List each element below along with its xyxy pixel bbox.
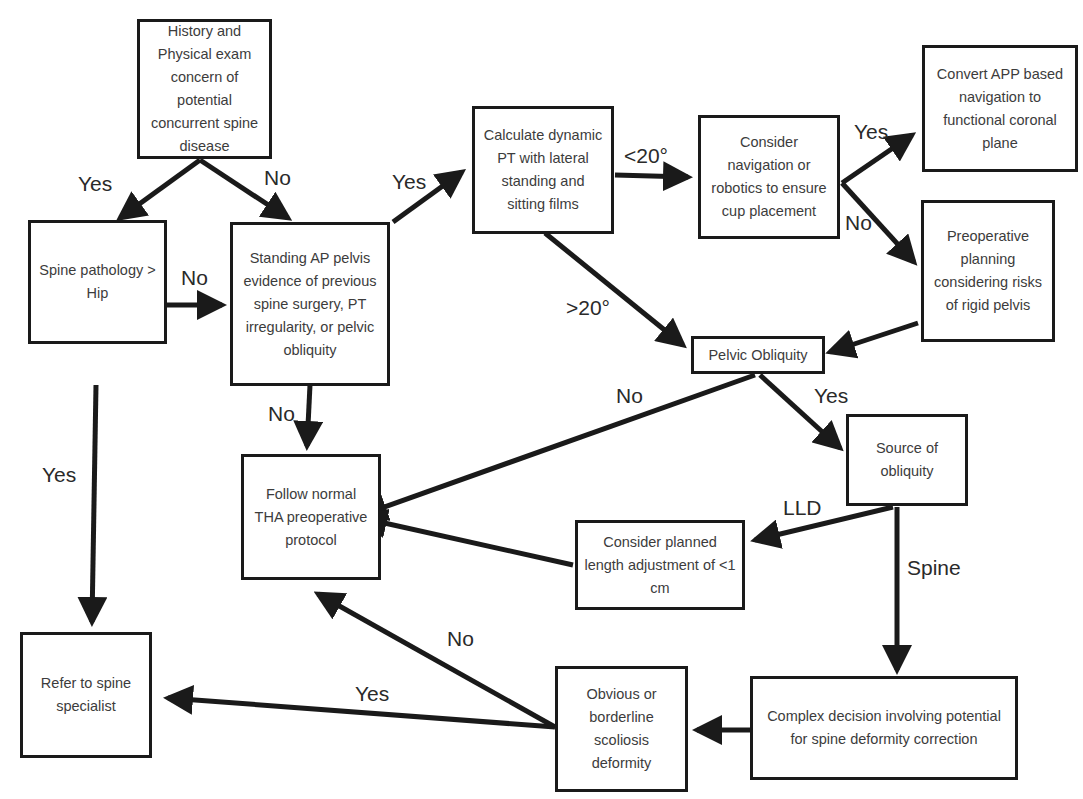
edge-label-history-yes: Yes (78, 172, 112, 196)
node-history: History and Physical exam concern of pot… (137, 19, 272, 159)
node-calculate-pt: Calculate dynamic PT with lateral standi… (472, 106, 614, 234)
node-preop-planning: Preoperative planning considering risks … (921, 200, 1055, 342)
node-obvious-scoliosis: Obvious or borderline scoliosis deformit… (555, 666, 688, 792)
edge-label-scoliosis-no: No (447, 627, 474, 651)
node-calculate-pt-text: Calculate dynamic PT with lateral standi… (481, 124, 605, 216)
node-source-obliquity: Source of obliquity (846, 414, 968, 506)
node-pelvic-obliquity: Pelvic Obliquity (691, 336, 825, 374)
node-preop-planning-text: Preoperative planning considering risks … (930, 225, 1046, 317)
edge-label-spine-yes: Yes (42, 463, 76, 487)
node-spine-pathology-text: Spine pathology > Hip (37, 259, 158, 305)
node-convert-app-text: Convert APP based navigation to function… (931, 63, 1069, 155)
node-follow-normal: Follow normal THA preoperative protocol (241, 454, 381, 580)
edge-label-scoliosis-yes: Yes (355, 682, 389, 706)
edge-label-pt-lt20: <20° (624, 144, 668, 168)
edge-label-obliquity-no: No (616, 384, 643, 408)
node-follow-normal-text: Follow normal THA preoperative protocol (250, 483, 372, 552)
edge-label-history-no: No (264, 166, 291, 190)
node-source-obliquity-text: Source of obliquity (855, 437, 959, 483)
edge-label-nav-no: No (845, 211, 872, 235)
node-consider-navigation-text: Consider navigation or robotics to ensur… (707, 131, 831, 223)
node-history-text: History and Physical exam concern of pot… (146, 20, 263, 158)
node-pelvic-obliquity-text: Pelvic Obliquity (708, 344, 807, 367)
node-refer-specialist: Refer to spine specialist (20, 632, 152, 758)
edge-label-source-spine: Spine (907, 556, 961, 580)
node-refer-specialist-text: Refer to spine specialist (29, 672, 143, 718)
node-spine-pathology: Spine pathology > Hip (28, 220, 167, 344)
edge-label-obliquity-yes: Yes (814, 384, 848, 408)
node-complex-decision-text: Complex decision involving potential for… (759, 705, 1009, 751)
node-standing-ap-text: Standing AP pelvis evidence of previous … (239, 247, 381, 362)
edge-label-nav-yes: Yes (854, 120, 888, 144)
node-consider-length-text: Consider planned length adjustment of <1… (584, 531, 736, 600)
node-obvious-scoliosis-text: Obvious or borderline scoliosis deformit… (564, 683, 679, 775)
node-consider-navigation: Consider navigation or robotics to ensur… (698, 115, 840, 239)
edge-label-source-lld: LLD (783, 496, 822, 520)
edge-label-pt-gt20: >20° (566, 296, 610, 320)
edge-label-standing-no: No (268, 402, 295, 426)
edge-label-standing-yes: Yes (392, 170, 426, 194)
node-complex-decision: Complex decision involving potential for… (750, 676, 1018, 780)
edge-label-spine-no: No (181, 266, 208, 290)
node-convert-app: Convert APP based navigation to function… (922, 45, 1078, 172)
node-consider-length: Consider planned length adjustment of <1… (575, 520, 745, 610)
node-standing-ap: Standing AP pelvis evidence of previous … (230, 222, 390, 386)
